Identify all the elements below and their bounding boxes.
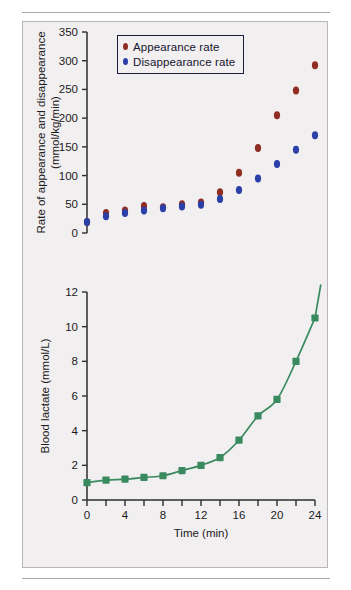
data-point-blood-lactate — [254, 412, 261, 419]
figure-panel: 050100150200250300350Rate of appearance … — [22, 21, 328, 568]
x-axis-label: Time (min) — [174, 527, 229, 539]
y-tick-label: 200 — [59, 112, 78, 124]
data-point-blood-lactate — [197, 462, 204, 469]
data-point-blood-lactate — [121, 476, 128, 483]
y-tick-label: 0 — [72, 494, 78, 506]
legend-label-appearance: Appearance rate — [133, 41, 220, 53]
data-point-blood-lactate — [178, 467, 185, 474]
data-point-disappearance — [236, 186, 242, 194]
lactate-chart-svg: 02468101204812162024Time (min)Blood lact… — [23, 272, 329, 569]
x-tick-label: 12 — [195, 509, 208, 521]
y-tick-label: 250 — [59, 83, 78, 95]
y-tick-label: 50 — [65, 198, 78, 210]
data-point-blood-lactate — [311, 314, 318, 321]
data-point-disappearance — [141, 207, 147, 215]
data-point-disappearance — [179, 203, 185, 211]
data-point-blood-lactate — [235, 437, 242, 444]
data-point-blood-lactate — [273, 396, 280, 403]
data-point-appearance — [255, 144, 261, 152]
bottom-horizontal-rule — [22, 578, 330, 579]
x-tick-label: 4 — [122, 509, 129, 521]
y-axis-label-line2: (mmol/kg/min) — [49, 96, 61, 169]
y-tick-label: 6 — [72, 390, 78, 402]
data-point-blood-lactate — [83, 479, 90, 486]
data-point-blood-lactate — [292, 358, 299, 365]
y-tick-label: 4 — [72, 425, 79, 437]
legend-item-appearance: Appearance rate — [123, 39, 235, 54]
legend-marker-appearance — [123, 43, 128, 50]
y-tick-label: 150 — [59, 141, 78, 153]
data-point-appearance — [217, 188, 223, 196]
legend-item-disappearance: Disappearance rate — [123, 54, 235, 69]
legend-label-disappearance: Disappearance rate — [133, 56, 235, 68]
data-point-disappearance — [274, 160, 280, 168]
y-tick-label: 350 — [59, 26, 78, 38]
data-point-disappearance — [255, 174, 261, 182]
data-point-disappearance — [293, 146, 299, 154]
x-tick-label: 24 — [309, 509, 322, 521]
data-point-disappearance — [217, 195, 223, 203]
legend-marker-disappearance — [123, 58, 128, 65]
lactate-fit-curve — [87, 285, 321, 483]
blood-lactate-chart: 02468101204812162024Time (min)Blood lact… — [23, 272, 329, 569]
x-tick-label: 0 — [84, 509, 90, 521]
x-tick-label: 16 — [233, 509, 246, 521]
data-point-appearance — [236, 169, 242, 177]
data-point-appearance — [312, 61, 318, 69]
data-point-disappearance — [160, 204, 166, 212]
data-point-disappearance — [122, 209, 128, 217]
y-axis-label: Blood lactate (mmol/L) — [39, 338, 51, 453]
y-tick-label: 100 — [59, 170, 78, 182]
data-point-blood-lactate — [140, 474, 147, 481]
data-point-disappearance — [312, 131, 318, 139]
y-tick-label: 12 — [65, 286, 78, 298]
data-point-disappearance — [84, 218, 90, 226]
data-point-blood-lactate — [159, 472, 166, 479]
top-horizontal-rule — [22, 12, 330, 13]
data-point-blood-lactate — [102, 476, 109, 483]
x-tick-label: 20 — [271, 509, 284, 521]
data-point-disappearance — [103, 212, 109, 220]
data-point-blood-lactate — [216, 454, 223, 461]
x-tick-label: 8 — [160, 509, 166, 521]
chart-legend: Appearance rate Disappearance rate — [117, 35, 244, 74]
y-tick-label: 2 — [72, 459, 78, 471]
data-point-appearance — [274, 111, 280, 119]
y-tick-label: 10 — [65, 321, 78, 333]
y-axis-label-line1: Rate of appearance and disappearance — [35, 31, 47, 233]
data-point-disappearance — [198, 201, 204, 209]
y-tick-label: 0 — [72, 227, 78, 239]
y-tick-label: 8 — [72, 355, 78, 367]
y-tick-label: 300 — [59, 55, 78, 67]
data-point-appearance — [293, 87, 299, 95]
